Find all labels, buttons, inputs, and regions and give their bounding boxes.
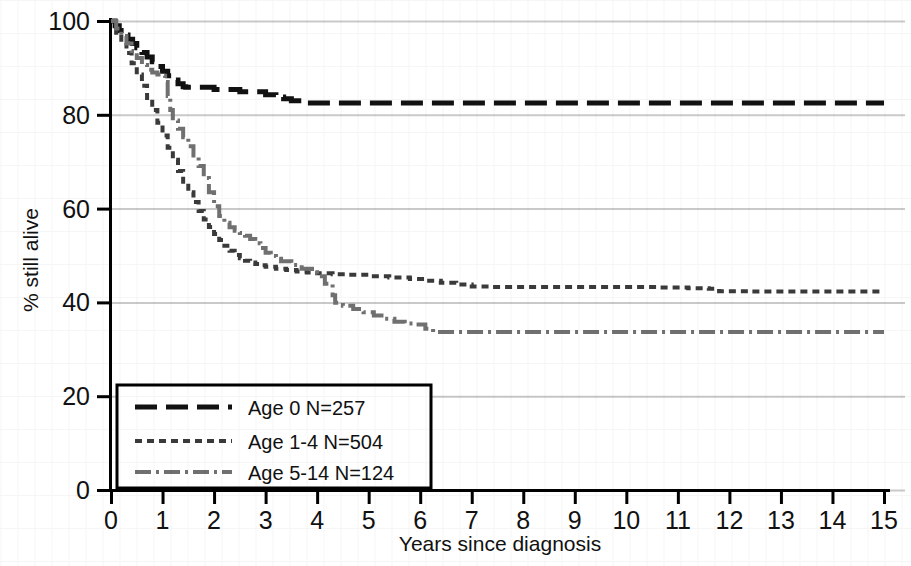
chart-legend: Age 0 N=257Age 1-4 N=504Age 5-14 N=124 [117,385,431,488]
x-tick-label-2: 2 [207,506,221,534]
legend-label-1: Age 1-4 N=504 [248,431,383,453]
x-tick-label-1: 1 [156,506,170,534]
y-tick-label-100: 100 [48,7,90,35]
x-tick-label-4: 4 [310,506,324,534]
x-tick-label-10: 10 [612,506,640,534]
x-tick-label-7: 7 [465,506,479,534]
y-tick-label-40: 40 [62,288,90,316]
x-tick-label-9: 9 [568,506,582,534]
legend-label-0: Age 0 N=257 [248,397,365,419]
kaplan-meier-chart: 100806040200 % still alive 0123456789101… [0,0,911,566]
x-tick-label-5: 5 [362,506,376,534]
y-tick-label-60: 60 [62,195,90,223]
x-tick-label-3: 3 [259,506,273,534]
legend-label-2: Age 5-14 N=124 [248,462,394,484]
x-tick-label-15: 15 [870,506,898,534]
x-tick-label-6: 6 [413,506,427,534]
x-tick-label-8: 8 [516,506,530,534]
survival-chart-figure: 100806040200 % still alive 0123456789101… [0,0,911,566]
y-tick-label-20: 20 [62,382,90,410]
x-tick-label-13: 13 [767,506,795,534]
y-tick-label-80: 80 [62,101,90,129]
x-tick-label-12: 12 [715,506,743,534]
x-axis-title: Years since diagnosis [399,532,601,555]
x-tick-label-14: 14 [819,506,847,534]
x-tick-label-0: 0 [104,506,118,534]
y-tick-label-0: 0 [76,476,90,504]
y-axis-title: % still alive [19,208,42,312]
x-tick-label-11: 11 [665,506,691,534]
